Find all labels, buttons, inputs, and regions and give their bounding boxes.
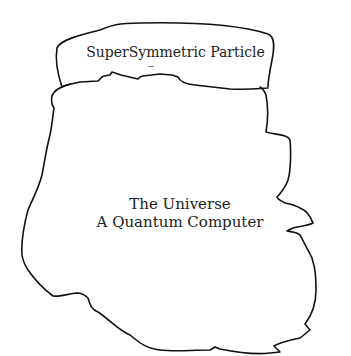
particle-label: SuperSymmetric Particle (0, 44, 351, 61)
universe-label: The Universe A Quantum Computer (80, 195, 280, 231)
universe-label-line1: The Universe (80, 195, 280, 213)
particle-dash-mark (148, 66, 154, 67)
universe-label-line2: A Quantum Computer (80, 213, 280, 231)
